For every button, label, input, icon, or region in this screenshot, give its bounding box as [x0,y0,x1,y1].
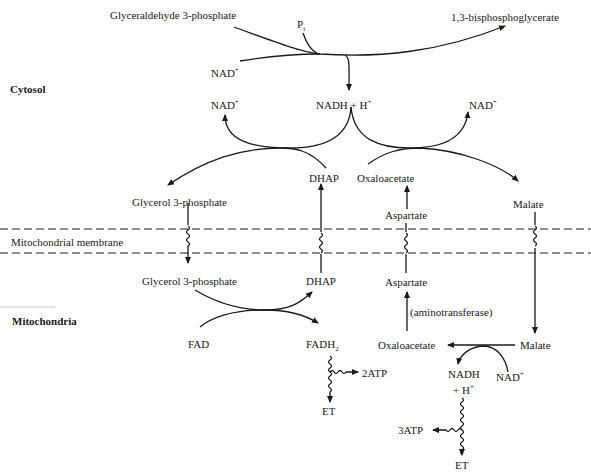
nadh-output-arrow [345,55,349,90]
g3p-mito-label: Glycerol 3-phosphate [142,275,237,287]
plus-h-mito-label: + H+ [453,381,474,396]
dhap-mito-label: DHAP [306,275,336,287]
nadh-et-arrow [461,398,464,455]
region-mitochondria-label: Mitochondria [12,315,77,327]
oaa-mito-label: Oxaloacetate [378,339,435,351]
nad-left-label: NAD+ [211,96,239,111]
nad-mito-label: NAD+ [496,368,524,383]
nadh-to-nad-left-arrow [225,107,351,148]
nad-mito-text: NAD [496,371,520,383]
nadh-to-nad-right-arrow [351,107,468,148]
et-fadh2-label: ET [322,405,335,417]
malate-cytosol-label: Malate [513,198,544,210]
g3p-cytosol-label: Glycerol 3-phosphate [132,196,227,208]
nad-right-label: NAD+ [469,96,497,111]
h-sup: + [367,98,371,106]
fadh2-et-arrow [329,356,332,402]
nadh-atp-arrow [433,429,462,432]
atp-fadh2-label: 2ATP [362,367,387,379]
asp-transporter-wave [405,233,408,253]
fadh-sub: 2 [335,345,339,353]
atp-nadh-label: 3ATP [398,424,423,436]
fadh2-atp-arrow [330,371,358,374]
dhap-cytosol-label: DHAP [309,172,339,184]
nad-mito-sup: + [520,370,524,378]
nad-text: NAD [211,67,235,79]
nadh-h-cytosol-label: NADH + H+ [316,96,371,111]
nadh-mito-label: NADH [448,368,480,380]
plus-h-text: + H [453,384,470,396]
asp-mito-label: Aspartate [385,276,427,288]
nad-left-text: NAD [211,99,235,111]
oaa-cytosol-label: Oxaloacetate [357,172,414,184]
pi-label: Pi [297,18,305,35]
g3p-glycolysis-label: Glyceraldehyde 3-phosphate [110,9,236,21]
fadh2-label: FADH2 [306,338,339,355]
et-nadh-label: ET [455,459,468,471]
nadh-text: NADH [316,99,348,111]
nad-right-sup: + [493,98,497,106]
nad-sup: + [235,66,239,74]
nad-left-sup: + [235,98,239,106]
nad-right-text: NAD [469,99,493,111]
dhap-to-g3p-arrow [168,148,326,185]
aminotransferase-label: (aminotransferase) [410,306,492,318]
malate-mito-label: Malate [520,339,551,351]
dhap-transporter-wave [320,233,323,253]
g3p-to-bpg-arrow [234,26,505,55]
nad-glycolysis-label: NAD+ [211,64,239,79]
bpg-label: 1,3-bisphosphoglycerate [451,11,559,23]
region-membrane-label: Mitochondrial membrane [11,236,123,248]
plus-text: + [351,99,357,111]
fad-to-fadh2-arrow [195,290,318,323]
asp-cytosol-label: Aspartate [385,209,427,221]
pi-subscript: i [303,25,305,33]
fadh-text: FADH [306,338,335,350]
plus-h-sup: + [470,383,474,391]
nad-input-line [240,54,320,61]
fad-label: FAD [188,338,209,350]
diagram-canvas: Cytosol Mitochondrial membrane Mitochond… [0,0,591,474]
region-cytosol-label: Cytosol [10,83,45,95]
